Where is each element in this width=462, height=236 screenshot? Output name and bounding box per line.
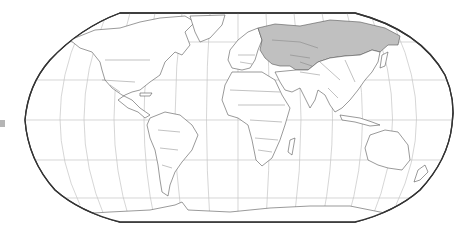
world-map	[0, 0, 462, 236]
